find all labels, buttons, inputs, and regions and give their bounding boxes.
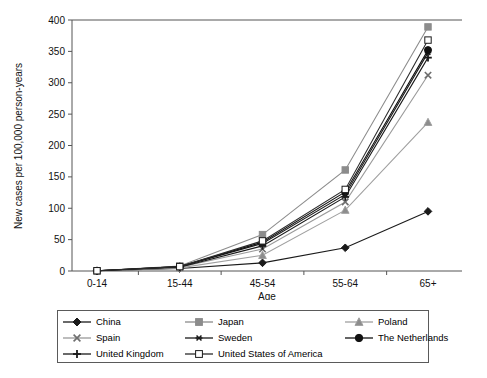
y-tick-label: 150 xyxy=(48,171,65,182)
y-tick-label: 400 xyxy=(48,15,65,26)
legend-item-label: China xyxy=(96,317,121,327)
legend-item-label: Poland xyxy=(378,317,408,327)
legend-item-label: Sweden xyxy=(218,333,252,343)
y-tick-label: 300 xyxy=(48,77,65,88)
y-tick-label: 50 xyxy=(54,234,66,245)
plot-area: 050100150200250300350400New cases per 10… xyxy=(0,0,487,300)
x-tick-label: 0-14 xyxy=(87,278,107,289)
legend-item[interactable]: Spain xyxy=(62,330,184,346)
legend-item[interactable]: The Netherlands xyxy=(344,330,448,346)
line-chart-svg: 050100150200250300350400New cases per 10… xyxy=(0,0,487,300)
legend-item-label: United Kingdom xyxy=(96,349,164,359)
legend-item-label: Spain xyxy=(96,333,120,343)
legend-item-label: The Netherlands xyxy=(378,333,448,343)
legend-item[interactable]: United Kingdom xyxy=(62,346,184,362)
legend-marker-asterisk-icon xyxy=(184,332,214,344)
legend-item[interactable]: Poland xyxy=(344,314,448,330)
chart-legend: ChinaJapanPolandSpainSwedenThe Netherlan… xyxy=(57,310,429,363)
y-tick-label: 350 xyxy=(48,46,65,57)
chart-figure: 050100150200250300350400New cases per 10… xyxy=(0,0,487,378)
x-tick-label: 15-44 xyxy=(167,278,193,289)
y-tick-label: 200 xyxy=(48,140,65,151)
legend-grid: ChinaJapanPolandSpainSwedenThe Netherlan… xyxy=(62,314,424,362)
y-tick-label: 250 xyxy=(48,109,65,120)
legend-item[interactable]: China xyxy=(62,314,184,330)
legend-marker-circle-icon xyxy=(344,332,374,344)
y-tick-label: 100 xyxy=(48,203,65,214)
x-axis-title: Age xyxy=(258,291,276,300)
series-poland xyxy=(93,118,432,274)
x-tick-label: 65+ xyxy=(420,278,437,289)
legend-marker-open-square-icon xyxy=(184,348,214,360)
legend-marker-diamond-icon xyxy=(62,316,92,328)
legend-marker-x-icon xyxy=(62,332,92,344)
legend-item[interactable]: United States of America xyxy=(184,346,344,362)
legend-item-label: United States of America xyxy=(218,349,323,359)
legend-marker-triangle-icon xyxy=(344,316,374,328)
y-axis-title: New cases per 100,000 person-years xyxy=(13,63,24,229)
series-united-states-of-america xyxy=(94,37,431,274)
x-tick-label: 45-54 xyxy=(250,278,276,289)
x-tick-label: 55-64 xyxy=(332,278,358,289)
legend-marker-square-icon xyxy=(184,316,214,328)
y-tick-label: 0 xyxy=(59,266,65,277)
legend-item-label: Japan xyxy=(218,317,244,327)
legend-item[interactable]: Japan xyxy=(184,314,344,330)
legend-item[interactable]: Sweden xyxy=(184,330,344,346)
legend-marker-plus-icon xyxy=(62,348,92,360)
